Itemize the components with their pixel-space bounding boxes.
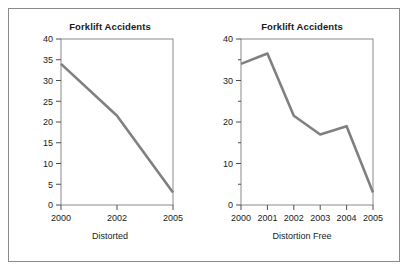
- x-tick-label-free-2003: 2003: [310, 213, 330, 223]
- x-tick-label-free-2000: 2000: [231, 213, 251, 223]
- chart-panel-distortion-free: Forklift Accidents: [205, 9, 399, 263]
- y-tick-label-free-20: 20: [223, 117, 233, 127]
- y-tick-label-free-0: 0: [228, 200, 233, 210]
- x-axis-ticks-distorted: [61, 205, 173, 210]
- data-series-line-distorted: [61, 64, 173, 193]
- chart-plot-distortion-free: 0 10 20 30 40 2000 2001 2002 2003: [205, 9, 399, 263]
- figure-outer-frame: Forklift Accidents 0: [8, 8, 400, 262]
- y-tick-label-distorted-10: 10: [43, 159, 53, 169]
- y-tick-label-distorted-0: 0: [48, 200, 53, 210]
- chart-panel-distorted: Forklift Accidents 0: [15, 9, 205, 263]
- figure-container: Forklift Accidents 0: [0, 0, 410, 272]
- plot-area-border-distorted: [61, 39, 173, 205]
- x-tick-label-free-2005: 2005: [363, 213, 383, 223]
- y-tick-label-free-40: 40: [223, 34, 233, 44]
- y-tick-label-distorted-25: 25: [43, 97, 53, 107]
- y-axis-major-ticks-distortion-free: [236, 39, 241, 205]
- y-tick-label-distorted-35: 35: [43, 55, 53, 65]
- x-axis-ticks-distortion-free: [241, 205, 373, 210]
- data-series-line-distortion-free: [241, 54, 373, 193]
- x-tick-label-distorted-2005: 2005: [163, 213, 183, 223]
- y-tick-label-distorted-30: 30: [43, 76, 53, 86]
- y-tick-label-distorted-5: 5: [48, 180, 53, 190]
- x-tick-label-free-2001: 2001: [257, 213, 277, 223]
- x-tick-label-distorted-2000: 2000: [51, 213, 71, 223]
- y-tick-label-free-30: 30: [223, 76, 233, 86]
- x-axis-caption-distorted: Distorted: [15, 231, 205, 241]
- x-tick-label-free-2004: 2004: [337, 213, 357, 223]
- y-tick-label-distorted-15: 15: [43, 138, 53, 148]
- plot-area-border-distortion-free: [241, 39, 373, 205]
- y-tick-label-free-10: 10: [223, 159, 233, 169]
- y-tick-label-distorted-20: 20: [43, 117, 53, 127]
- y-axis-ticks-distorted: [56, 39, 61, 205]
- chart-plot-distorted: 0 5 10 15 20 25 30 35 40 2000 2002 2005: [15, 9, 205, 263]
- x-tick-label-distorted-2002: 2002: [107, 213, 127, 223]
- x-axis-caption-distortion-free: Distortion Free: [205, 231, 399, 241]
- x-tick-label-free-2002: 2002: [284, 213, 304, 223]
- y-tick-label-distorted-40: 40: [43, 34, 53, 44]
